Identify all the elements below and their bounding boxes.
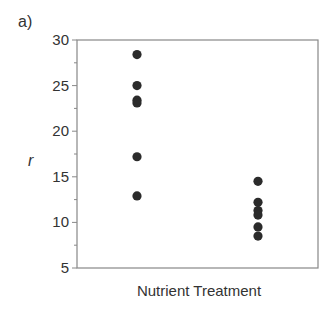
- y-tick-label: 10: [52, 213, 69, 230]
- y-tick-label: 30: [52, 31, 69, 48]
- data-point: [253, 231, 262, 240]
- data-point: [132, 81, 141, 90]
- y-tick-label: 15: [52, 168, 69, 185]
- data-point: [132, 98, 141, 107]
- data-point: [253, 222, 262, 231]
- data-point: [253, 177, 262, 186]
- data-point: [132, 191, 141, 200]
- y-tick-label: 25: [52, 77, 69, 94]
- data-point: [253, 198, 262, 207]
- y-tick-label: 20: [52, 122, 69, 139]
- scatter-plot: 51015202530: [0, 0, 334, 309]
- data-point: [253, 211, 262, 220]
- y-tick-label: 5: [61, 259, 69, 276]
- data-point: [132, 152, 141, 161]
- plot-frame: [77, 40, 318, 268]
- data-point: [132, 50, 141, 59]
